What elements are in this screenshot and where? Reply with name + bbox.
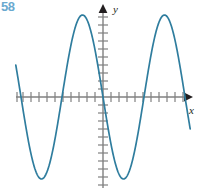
x-axis-label: x bbox=[188, 104, 194, 116]
y-axis-label: y bbox=[112, 3, 118, 15]
y-axis-arrow-icon bbox=[99, 4, 108, 13]
coordinate-plot: y x bbox=[0, 0, 201, 191]
graph-figure: 58 bbox=[0, 0, 201, 191]
